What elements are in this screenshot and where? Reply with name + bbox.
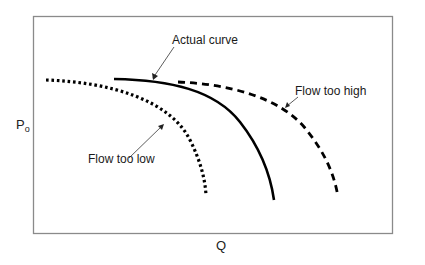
flow-too-high-curve — [178, 82, 338, 197]
flow-too-low-label: Flow too low — [88, 152, 155, 166]
y-axis-label-main: P — [16, 117, 25, 132]
actual-curve-pointer — [152, 47, 174, 80]
x-axis-label: Q — [216, 238, 226, 253]
plot-frame — [34, 17, 393, 234]
flow-too-low-curve — [46, 80, 206, 195]
flow-too-high-label: Flow too high — [295, 84, 366, 98]
y-axis-label: Po — [16, 117, 30, 132]
actual-curve-label: Actual curve — [172, 33, 238, 47]
y-axis-label-subscript: o — [25, 124, 30, 134]
flow-too-high-pointer — [285, 97, 298, 108]
